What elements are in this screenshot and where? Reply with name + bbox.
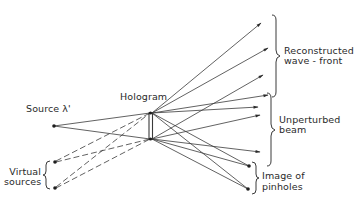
reconstructed-ray-2 — [152, 48, 268, 113]
source-label: Source λ' — [26, 104, 71, 114]
virtual-source-point-2 — [53, 186, 57, 190]
unperturbed-brace — [267, 93, 275, 166]
unperturbed-ray-1 — [152, 107, 258, 113]
virtual-source-point-1 — [53, 160, 57, 164]
pinhole-ray-2 — [152, 139, 249, 166]
reconstructed-ray-1 — [152, 23, 261, 113]
hologram-label: Hologram — [120, 92, 167, 102]
source-point — [52, 124, 56, 128]
pinholes-brace — [252, 162, 259, 194]
reconstructed-brace — [272, 15, 280, 97]
virtual-sources-label-line2: sources — [4, 177, 41, 187]
pinholes-label-line2: pinholes — [262, 182, 303, 192]
unperturbed-ray-3 — [152, 139, 260, 152]
pinhole-ray-3 — [152, 113, 248, 189]
pinhole-image-point-2 — [246, 187, 250, 191]
unperturbed-ray-2 — [152, 115, 260, 139]
reconstructed-ray-4 — [152, 95, 268, 113]
source-ray-bottom — [54, 126, 150, 139]
hologram-plate — [149, 113, 153, 139]
unperturbed-label-line2: beam — [279, 125, 306, 135]
reconstructed-ray-3 — [152, 75, 263, 139]
virtual-rays — [56, 113, 150, 188]
reconstructed-label-line2: wave - front — [284, 56, 342, 66]
pinhole-ray-4 — [152, 139, 248, 189]
pinhole-image-point-1 — [247, 164, 251, 168]
pinholes-label-line1: Image of — [262, 171, 305, 181]
hologram-bottom-point — [149, 137, 152, 140]
virtual-sources-brace — [43, 161, 50, 189]
hologram-top-point — [149, 111, 152, 114]
